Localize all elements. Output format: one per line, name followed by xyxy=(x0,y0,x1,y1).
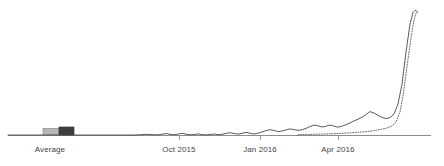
sparkline-chart: Average Oct 2015 Jan 2016 Apr 2016 xyxy=(0,0,444,166)
average-marker-dark-box xyxy=(59,127,74,135)
x-tick-label-apr-2016: Apr 2016 xyxy=(310,145,366,155)
sparkline-plot-area xyxy=(0,0,444,166)
series-actual-line xyxy=(8,10,416,135)
x-tick-label-jan-2016: Jan 2016 xyxy=(232,145,288,155)
series-forecast-line xyxy=(298,12,417,135)
average-marker-light-box xyxy=(43,129,59,136)
x-tick-label-average: Average xyxy=(22,145,78,155)
x-tick-label-oct-2015: Oct 2015 xyxy=(151,145,207,155)
